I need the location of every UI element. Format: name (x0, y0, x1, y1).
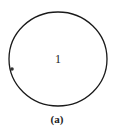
region-label: 1 (53, 52, 63, 67)
figure-caption: (a) (40, 113, 74, 125)
boundary-point-marker (10, 67, 14, 71)
